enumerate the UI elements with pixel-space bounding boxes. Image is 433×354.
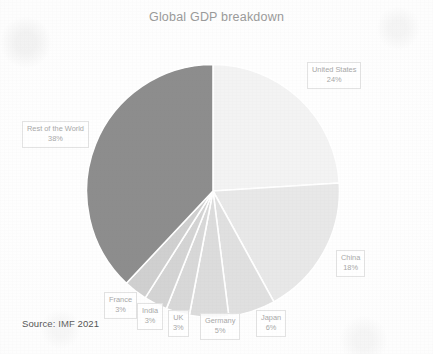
pie-chart-svg	[86, 64, 340, 318]
callout-label: China	[341, 253, 360, 263]
callout-rest-of-the-world: Rest of the World 38%	[22, 121, 89, 148]
callout-india: India 3%	[137, 303, 163, 330]
callout-percent: 18%	[341, 263, 360, 273]
callout-label: UK	[173, 313, 184, 323]
callout-china: China 18%	[336, 250, 365, 277]
callout-germany: Germany 5%	[200, 313, 240, 340]
callout-label: Rest of the World	[27, 124, 84, 134]
callout-label: India	[142, 306, 158, 316]
callout-label: United States	[312, 65, 356, 75]
callout-japan: Japan 6%	[256, 310, 286, 337]
pie-slice-group	[87, 65, 340, 318]
callout-percent: 3%	[173, 323, 184, 333]
source-note: Source: IMF 2021	[22, 318, 99, 329]
callout-france: France 3%	[104, 292, 137, 319]
callout-uk: UK 3%	[168, 310, 189, 337]
callout-label: Germany	[205, 316, 235, 326]
callout-percent: 6%	[261, 323, 281, 333]
pie-chart	[86, 64, 340, 318]
callout-label: Japan	[261, 313, 281, 323]
callout-percent: 24%	[312, 75, 356, 85]
callout-united-states: United States 24%	[307, 62, 361, 89]
page-title: Global GDP breakdown	[0, 10, 433, 24]
callout-percent: 38%	[27, 134, 84, 144]
callout-percent: 5%	[205, 326, 235, 336]
callout-label: France	[109, 295, 132, 305]
callout-percent: 3%	[142, 316, 158, 326]
callout-percent: 3%	[109, 305, 132, 315]
